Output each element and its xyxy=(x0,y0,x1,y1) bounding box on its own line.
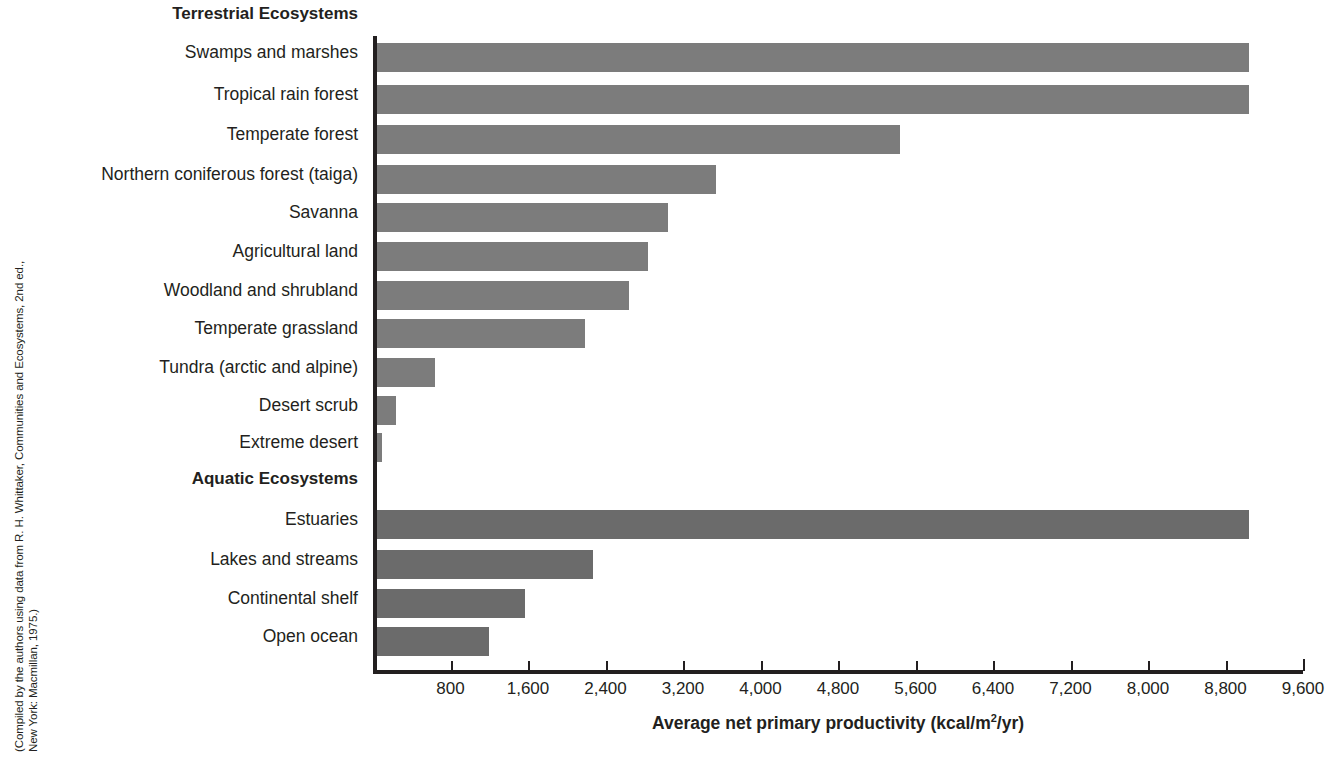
x-axis-tick-label: 3,200 xyxy=(662,679,705,699)
bar xyxy=(377,589,525,618)
x-axis-tick-label: 4,000 xyxy=(739,679,782,699)
x-axis-tick xyxy=(838,661,840,671)
x-axis-tick-label: 9,600 xyxy=(1282,679,1325,699)
x-axis-tick-label: 8,000 xyxy=(1127,679,1170,699)
x-axis-tick xyxy=(1148,661,1150,671)
x-axis-tick-label: 4,800 xyxy=(817,679,860,699)
category-label: Estuaries xyxy=(36,509,358,529)
category-label: Northern coniferous forest (taiga) xyxy=(36,164,358,184)
category-label: Tundra (arctic and alpine) xyxy=(36,357,358,377)
x-axis-tick xyxy=(528,661,530,671)
category-label: Temperate grassland xyxy=(36,318,358,338)
x-axis-tick xyxy=(916,661,918,671)
category-label: Extreme desert xyxy=(36,432,358,452)
x-axis-tick xyxy=(1226,661,1228,671)
category-label: Continental shelf xyxy=(36,588,358,608)
x-axis-tick-label: 5,600 xyxy=(894,679,937,699)
x-axis-tick-label: 1,600 xyxy=(507,679,550,699)
bar xyxy=(377,165,716,194)
bar xyxy=(377,281,629,310)
x-axis-tick xyxy=(373,659,375,671)
category-label: Open ocean xyxy=(36,626,358,646)
category-label: Lakes and streams xyxy=(36,549,358,569)
x-axis-tick xyxy=(1303,659,1305,671)
bar xyxy=(377,242,648,271)
x-axis-tick xyxy=(683,661,685,671)
source-credit: (Compiled by the authors using data from… xyxy=(0,0,40,765)
x-axis-tick xyxy=(451,661,453,671)
bar-chart: Terrestrial EcosystemsSwamps and marshes… xyxy=(36,0,1340,765)
bar xyxy=(377,510,1249,539)
group-heading: Terrestrial Ecosystems xyxy=(36,4,358,24)
x-axis-title: Average net primary productivity (kcal/m… xyxy=(373,712,1303,734)
x-axis-tick-label: 8,800 xyxy=(1204,679,1247,699)
x-axis: 8001,6002,4003,2004,0004,8005,6006,4007,… xyxy=(373,670,1307,671)
x-axis-tick xyxy=(606,661,608,671)
bar xyxy=(377,550,593,579)
bar xyxy=(377,396,396,425)
bar xyxy=(377,43,1249,72)
x-axis-title-exponent: 2 xyxy=(991,712,997,724)
bar xyxy=(377,358,435,387)
category-label: Desert scrub xyxy=(36,395,358,415)
category-label: Woodland and shrubland xyxy=(36,280,358,300)
x-axis-tick-label: 6,400 xyxy=(972,679,1015,699)
x-axis-tick-label: 2,400 xyxy=(584,679,627,699)
x-axis-tick-label: 800 xyxy=(436,679,464,699)
bar xyxy=(377,627,489,656)
bar xyxy=(377,203,668,232)
x-axis-tick xyxy=(761,661,763,671)
bar xyxy=(377,125,900,154)
x-axis-tick xyxy=(993,661,995,671)
x-axis-tick xyxy=(1071,661,1073,671)
plot-area xyxy=(373,36,1303,670)
x-axis-tick-label: 7,200 xyxy=(1049,679,1092,699)
category-label: Agricultural land xyxy=(36,241,358,261)
bar xyxy=(377,433,382,462)
category-label: Savanna xyxy=(36,202,358,222)
category-label: Temperate forest xyxy=(36,124,358,144)
bar xyxy=(377,319,585,348)
category-label: Tropical rain forest xyxy=(36,84,358,104)
bar xyxy=(377,85,1249,114)
category-label: Swamps and marshes xyxy=(36,42,358,62)
source-credit-line-1: (Compiled by the authors using data from… xyxy=(13,261,25,752)
group-heading: Aquatic Ecosystems xyxy=(36,469,358,489)
